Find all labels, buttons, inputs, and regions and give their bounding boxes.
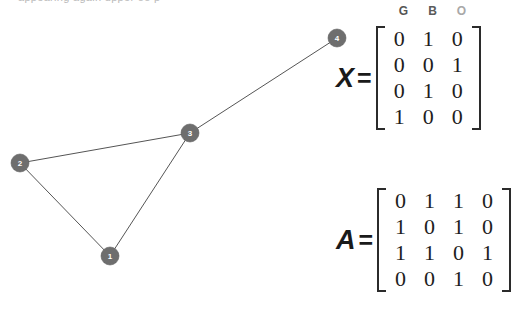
matrix-a-cell: 0 (386, 266, 415, 292)
matrix-x-cell: 0 (385, 26, 414, 52)
edge-3-4 (190, 38, 337, 133)
matrix-x-cell: 1 (385, 104, 414, 130)
matrix-x-row: 0 1 0 (385, 26, 472, 52)
matrix-a-cell: 1 (444, 266, 473, 292)
edge-2-3 (20, 133, 190, 163)
figure-canvas: appearing again upper oo p 1 2 (0, 0, 529, 314)
matrix-a-equals: = (359, 228, 374, 253)
graph-edges (20, 38, 337, 256)
matrix-x-cell: 0 (443, 26, 472, 52)
matrix-a-cell: 1 (386, 240, 415, 266)
matrix-x-cell: 1 (414, 26, 443, 52)
matrix-x-cell: 0 (385, 78, 414, 104)
edge-2-1 (20, 163, 110, 256)
matrix-a-row: 0 0 1 0 (386, 266, 502, 292)
matrix-a-cell: 0 (444, 240, 473, 266)
node-label-1: 1 (108, 252, 113, 261)
matrix-a-right-bracket (502, 188, 511, 292)
matrix-a: A = 0 1 1 0 1 0 1 0 (336, 188, 511, 292)
matrix-x-row: 0 0 1 (385, 52, 472, 78)
node-label-2: 2 (18, 159, 23, 168)
feature-column-headers: G B O (389, 3, 476, 19)
matrix-x-right-bracket (472, 26, 481, 130)
matrix-x-cell: 1 (443, 52, 472, 78)
matrix-x-row: 0 1 0 (385, 78, 472, 104)
matrix-a-cell: 0 (386, 188, 415, 214)
matrix-x: X = 0 1 0 0 0 1 0 (336, 26, 481, 130)
matrix-a-cell: 0 (415, 266, 444, 292)
matrix-a-cell: 1 (473, 240, 502, 266)
matrix-x-equals: = (357, 66, 372, 91)
matrix-x-cell: 0 (443, 78, 472, 104)
matrix-x-cell: 0 (414, 52, 443, 78)
matrix-a-cell: 0 (473, 188, 502, 214)
matrix-a-row: 1 1 0 1 (386, 240, 502, 266)
feature-header-o: O (447, 3, 476, 19)
matrix-a-row: 0 1 1 0 (386, 188, 502, 214)
matrix-a-cell: 1 (415, 188, 444, 214)
graph-node-1[interactable]: 1 (101, 247, 119, 265)
node-label-3: 3 (188, 129, 193, 138)
matrix-a-grid: 0 1 1 0 1 0 1 0 1 1 0 1 (386, 188, 502, 292)
matrix-a-name: A (336, 227, 356, 254)
matrix-a-cell: 0 (415, 214, 444, 240)
edge-1-3 (110, 133, 190, 256)
matrix-x-cell: 0 (414, 104, 443, 130)
matrix-x-cell: 0 (385, 52, 414, 78)
feature-header-b: B (418, 3, 447, 19)
matrix-x-cell: 0 (443, 104, 472, 130)
matrix-x-cell: 1 (414, 78, 443, 104)
matrix-x-left-bracket (376, 26, 385, 130)
matrix-x-body: 0 1 0 0 0 1 0 1 0 1 (376, 26, 481, 130)
matrix-a-cell: 1 (444, 188, 473, 214)
matrix-x-name: X (336, 65, 354, 92)
graph-node-2[interactable]: 2 (11, 154, 29, 172)
matrix-a-cell: 0 (473, 214, 502, 240)
matrix-a-left-bracket (377, 188, 386, 292)
matrix-x-grid: 0 1 0 0 0 1 0 1 0 1 (385, 26, 472, 130)
matrix-a-body: 0 1 1 0 1 0 1 0 1 1 0 1 (377, 188, 511, 292)
matrix-x-row: 1 0 0 (385, 104, 472, 130)
feature-header-g: G (389, 3, 418, 19)
graph-node-3[interactable]: 3 (181, 124, 199, 142)
matrix-a-row: 1 0 1 0 (386, 214, 502, 240)
graph-diagram: 1 2 3 4 (0, 0, 360, 314)
matrix-a-cell: 1 (444, 214, 473, 240)
matrix-a-cell: 1 (415, 240, 444, 266)
matrix-a-cell: 0 (473, 266, 502, 292)
matrix-a-cell: 1 (386, 214, 415, 240)
